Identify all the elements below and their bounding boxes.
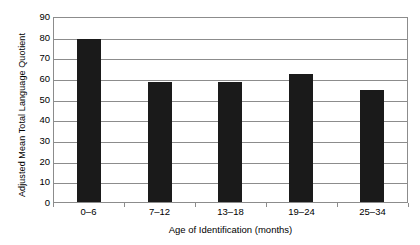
bar-slot [195, 18, 266, 202]
x-axis-tick-label: 13–18 [195, 207, 266, 217]
x-axis-tick-label: 25–34 [337, 207, 408, 217]
x-axis-tick-labels: 0–67–1213–1819–2425–34 [53, 207, 408, 217]
y-axis-tick-label: 40 [24, 116, 50, 126]
y-axis-tick-label: 30 [24, 136, 50, 146]
plot-area [53, 17, 408, 203]
bar-slot [336, 18, 407, 202]
x-axis-tick-label: 0–6 [53, 207, 124, 217]
x-axis-tick-label: 7–12 [124, 207, 195, 217]
bar-slot [54, 18, 125, 202]
y-axis-tick-label: 90 [24, 12, 50, 22]
y-axis-tick-label: 70 [24, 54, 50, 64]
bar[interactable] [360, 90, 384, 202]
x-axis-tick-mark [408, 203, 409, 207]
x-axis-tick-label: 19–24 [266, 207, 337, 217]
y-axis-tick-label: 60 [24, 74, 50, 84]
bar[interactable] [289, 74, 313, 202]
y-axis-tick-label: 80 [24, 33, 50, 43]
bar[interactable] [218, 82, 242, 202]
bar-chart: Adjusted Mean Total Language Quotient 90… [0, 0, 420, 245]
bar-series [54, 18, 407, 202]
y-axis-tick-label: 20 [24, 157, 50, 167]
y-axis-tick-label: 50 [24, 95, 50, 105]
bar[interactable] [77, 39, 101, 202]
y-axis-tick-label: 0 [24, 198, 50, 208]
y-axis-tick-label: 10 [24, 178, 50, 188]
bar-slot [125, 18, 196, 202]
bar-slot [266, 18, 337, 202]
x-axis-title: Age of Identification (months) [53, 224, 408, 235]
bar[interactable] [148, 82, 172, 202]
y-axis-tick-labels: 9080706050403020100 [24, 17, 50, 203]
